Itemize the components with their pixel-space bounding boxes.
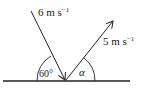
outgoing-speed-label: 5 m s−1 [103, 35, 135, 47]
collision-diagram: 6 m s−1 5 m s−1 60° α [0, 0, 150, 95]
incoming-speed-label: 6 m s−1 [38, 6, 70, 18]
outgoing-angle-arc [84, 58, 95, 81]
outgoing-velocity-arrow [66, 21, 113, 80]
outgoing-angle-label: α [79, 66, 85, 78]
incoming-angle-label: 60° [39, 68, 53, 79]
